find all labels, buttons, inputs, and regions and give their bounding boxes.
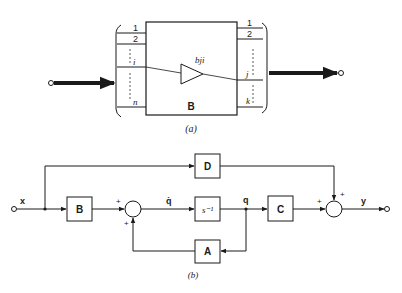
sum1-sign-bottom: + bbox=[124, 219, 129, 228]
summing-junction-2 bbox=[326, 201, 342, 217]
output-port-j: j bbox=[245, 69, 249, 79]
input-bracket bbox=[116, 25, 121, 117]
matrix-block-b-label: B bbox=[187, 101, 194, 112]
output-y-terminal bbox=[385, 207, 390, 212]
input-port-1: 1 bbox=[133, 23, 138, 33]
figure-b: x B + + q̇ D s⁻¹ q A C + bbox=[12, 154, 390, 280]
figure-a: 1 2 i n B bji 1 2 j k bbox=[49, 18, 344, 135]
integrator-label: s⁻¹ bbox=[202, 205, 214, 215]
block-a-label: A bbox=[204, 246, 211, 257]
block-b-label: B bbox=[76, 204, 83, 215]
sum2-sign-left: + bbox=[317, 197, 322, 206]
block-c-label: C bbox=[277, 204, 284, 215]
output-terminal bbox=[339, 71, 344, 76]
state-label: q bbox=[243, 195, 249, 205]
block-diagram-canvas: 1 2 i n B bji 1 2 j k bbox=[0, 0, 402, 293]
output-port-2: 2 bbox=[247, 29, 252, 39]
output-y-label: y bbox=[361, 196, 366, 206]
sum1-sign-top: + bbox=[116, 197, 121, 206]
output-port-k: k bbox=[246, 96, 251, 106]
output-ellipsis-dots bbox=[252, 49, 253, 102]
sum2-sign-top: + bbox=[340, 190, 345, 199]
input-ellipsis-dots bbox=[129, 49, 130, 98]
output-bracket bbox=[262, 23, 267, 113]
state-derivative-label: q̇ bbox=[166, 196, 172, 206]
input-port-i: i bbox=[133, 57, 136, 67]
output-port-1: 1 bbox=[247, 18, 252, 28]
gain-label: bji bbox=[195, 55, 205, 65]
input-x-label: x bbox=[20, 196, 25, 206]
summing-junction-1 bbox=[125, 201, 141, 217]
input-x-terminal bbox=[12, 207, 17, 212]
input-terminal bbox=[49, 81, 54, 86]
caption-a: (a) bbox=[185, 123, 197, 135]
block-d-label: D bbox=[204, 161, 211, 172]
input-port-n: n bbox=[133, 97, 138, 107]
input-port-2: 2 bbox=[133, 34, 138, 44]
caption-b: (b) bbox=[188, 270, 199, 280]
